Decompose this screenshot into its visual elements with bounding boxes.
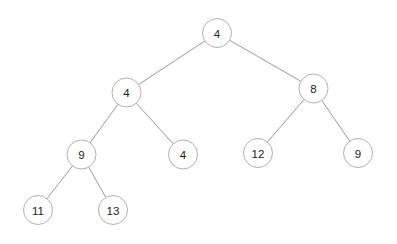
tree-node-label: 4 [123, 87, 130, 99]
tree-canvas: 448941291113 [0, 0, 397, 244]
tree-node[interactable]: 4 [203, 19, 232, 48]
tree-edge-n3-n7 [47, 166, 73, 199]
tree-node-label: 13 [107, 205, 120, 217]
tree-node[interactable]: 13 [99, 196, 128, 225]
tree-node[interactable]: 9 [344, 139, 373, 168]
tree-node-label: 12 [252, 148, 265, 160]
tree-node[interactable]: 9 [67, 140, 96, 169]
tree-node[interactable]: 4 [112, 78, 141, 107]
tree-node-label: 11 [32, 205, 44, 217]
tree-edge-n2-n5 [267, 99, 304, 142]
edge-layer [47, 40, 350, 198]
tree-edge-n3-n8 [89, 167, 106, 197]
tree-node-label: 8 [310, 83, 316, 95]
tree-node-label: 4 [214, 28, 221, 40]
tree-edge-n0-n1 [139, 41, 205, 85]
tree-edge-n0-n2 [230, 40, 301, 81]
tree-node[interactable]: 4 [169, 140, 198, 169]
tree-edge-n2-n6 [322, 100, 350, 141]
tree-node-label: 9 [78, 149, 84, 161]
node-layer: 448941291113 [24, 19, 373, 225]
tree-edge-n1-n4 [136, 103, 173, 144]
tree-node[interactable]: 11 [24, 196, 53, 225]
tree-edge-n1-n3 [90, 104, 118, 143]
binary-tree-diagram: 448941291113 [0, 0, 397, 244]
tree-node-label: 4 [180, 149, 187, 161]
tree-node[interactable]: 8 [299, 74, 328, 103]
tree-node[interactable]: 12 [244, 139, 273, 168]
tree-node-label: 9 [355, 148, 361, 160]
